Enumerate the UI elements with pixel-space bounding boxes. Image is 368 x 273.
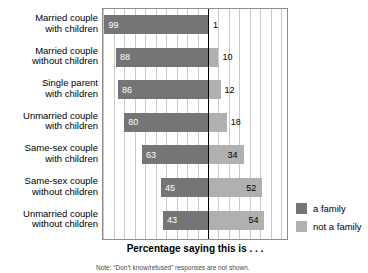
bar-segment-not-a-family: 34 (208, 145, 244, 164)
chart-footnote: Note: “Don’t know/refused” responses are… (96, 264, 250, 272)
legend-item: a family (296, 203, 362, 214)
bar-value-not-a-family: 54 (248, 216, 258, 225)
legend-label: not a family (313, 221, 362, 232)
bar-row: 199 (103, 15, 287, 34)
category-label: Single parentwith children (0, 78, 98, 99)
bar-row: 1286 (103, 80, 287, 99)
category-label: Married couplewith children (0, 13, 98, 34)
bar-segment-not-a-family (208, 113, 227, 132)
legend: a familynot a family (296, 203, 362, 239)
legend-swatch (296, 203, 307, 214)
category-label: Unmarried couplewith children (0, 111, 98, 132)
bar-value-not-a-family: 1 (213, 20, 218, 29)
bar-row: 6334 (103, 145, 287, 164)
bar-segment-a-family: 63 (142, 145, 208, 164)
bar-row: 4552 (103, 178, 287, 197)
category-label: Same-sex couplewith children (0, 143, 98, 164)
bar-value-not-a-family: 10 (222, 53, 232, 62)
category-label: Same-sex couplewithout children (0, 176, 98, 197)
bar-segment-not-a-family (208, 80, 221, 99)
legend-label: a family (313, 203, 346, 214)
bar-value-not-a-family: 52 (246, 183, 256, 192)
legend-swatch (296, 221, 307, 232)
bar-value-a-family: 45 (165, 183, 175, 192)
category-label: Married couplewithout children (0, 46, 98, 67)
bar-row: 1088 (103, 48, 287, 67)
bar-value-a-family: 63 (146, 150, 156, 159)
bar-value-not-a-family: 12 (225, 85, 235, 94)
x-axis-title: Percentage saying this is . . . (102, 243, 288, 254)
bar-segment-not-a-family (208, 48, 218, 67)
bar-segment-a-family: 80 (124, 113, 208, 132)
bar-value-a-family: 80 (128, 118, 138, 127)
zero-reference-line (208, 9, 209, 239)
bar-segment-a-family: 86 (118, 80, 208, 99)
category-label: Unmarried couplewithout children (0, 209, 98, 230)
bar-value-a-family: 43 (167, 216, 177, 225)
bar-segment-not-a-family: 54 (208, 211, 264, 230)
bar-value-not-a-family: 34 (228, 150, 238, 159)
bar-segment-a-family: 88 (116, 48, 208, 67)
bar-value-a-family: 88 (120, 53, 130, 62)
bar-value-a-family: 86 (122, 85, 132, 94)
legend-item: not a family (296, 221, 362, 232)
bar-row: 1880 (103, 113, 287, 132)
bar-row: 4354 (103, 211, 287, 230)
plot-area: 199108812861880633445524354 (102, 8, 288, 240)
bar-segment-a-family: 43 (163, 211, 208, 230)
bar-segment-a-family: 45 (161, 178, 208, 197)
bar-value-not-a-family: 18 (231, 118, 241, 127)
bar-segment-a-family: 99 (104, 15, 208, 34)
chart-container: Married couplewith childrenMarried coupl… (0, 0, 368, 273)
bar-segment-not-a-family: 52 (208, 178, 262, 197)
bar-value-a-family: 99 (108, 20, 118, 29)
